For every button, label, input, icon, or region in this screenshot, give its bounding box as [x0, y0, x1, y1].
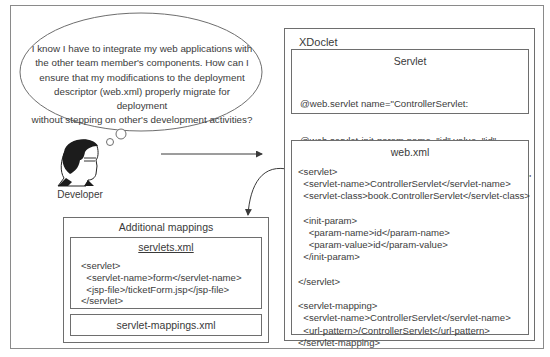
- webxml-box: web.xml <servlet> <servlet-name>Controll…: [291, 140, 529, 335]
- developer-portrait-icon: [58, 139, 98, 186]
- thought-line: the other team member's components. How …: [28, 56, 256, 70]
- servlets-xml-title: servlets.xml: [71, 241, 261, 253]
- thought-line: without stepping on other's development …: [28, 113, 256, 127]
- webxml-title: web.xml: [292, 146, 528, 158]
- thought-line: I know I have to integrate my web applic…: [28, 42, 256, 56]
- additional-mappings-title: Additional mappings: [64, 221, 268, 233]
- servlet-mappings-xml-title: servlet-mappings.xml: [71, 319, 261, 331]
- servlet-mappings-xml-box: servlet-mappings.xml: [70, 314, 262, 336]
- servlets-xml-box: servlets.xml <servlet> <servlet-name>for…: [70, 237, 262, 309]
- developer-label: Developer: [50, 189, 110, 200]
- servlet-box-title: Servlet: [292, 55, 528, 67]
- servlet-annotations-box: Servlet @web.servlet name="ControllerSer…: [291, 49, 529, 114]
- webxml-code: <servlet> <servlet-name>ControllerServle…: [298, 166, 530, 349]
- servlets-xml-code: <servlet> <servlet-name>form</servlet-na…: [81, 260, 242, 307]
- thought-line: ensure that my modifications to the depl…: [28, 71, 256, 85]
- xdoclet-title: XDoclet: [299, 36, 338, 48]
- thought-line: descriptor (web.xml) properly migrate fo…: [28, 85, 256, 114]
- thought-bubble-text: I know I have to integrate my web applic…: [28, 42, 256, 128]
- annotation-line: @web.servlet name="ControllerServlet:: [300, 98, 531, 110]
